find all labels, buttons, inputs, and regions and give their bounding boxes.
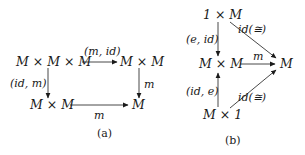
label-b-top-diag: id(≅) [238, 24, 266, 35]
node-a-bottom-left: M × M [30, 99, 74, 112]
node-a-bottom-right: M [132, 99, 145, 112]
label-b-top-down: (e, id) [186, 34, 219, 45]
node-b-middle: M × M [199, 58, 243, 71]
node-b-top: 1 × M [203, 9, 242, 22]
node-b-bottom: M × 1 [203, 109, 242, 122]
caption-a: (a) [97, 128, 112, 139]
label-a-left: (id, m) [10, 78, 47, 89]
label-a-right: m [144, 79, 154, 90]
caption-b: (b) [225, 135, 241, 146]
label-a-bottom: m [94, 110, 104, 121]
node-b-right: M [280, 58, 293, 71]
label-b-middle: m [253, 51, 263, 62]
node-a-top-left: M × M × M [16, 56, 91, 69]
label-b-bottom-diag: id(≅) [238, 92, 266, 103]
diagram-canvas: M × M × M M × M M × M M (m, id) (id, m) … [0, 0, 305, 155]
label-b-bottom-up: (id, e) [186, 86, 219, 97]
label-a-top: (m, id) [84, 46, 121, 57]
node-a-top-right: M × M [120, 56, 164, 69]
